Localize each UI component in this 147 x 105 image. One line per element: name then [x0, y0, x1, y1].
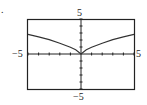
graph: [0, 0, 147, 105]
